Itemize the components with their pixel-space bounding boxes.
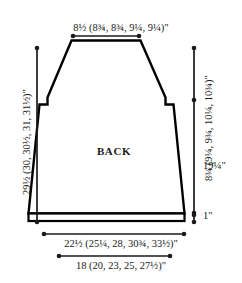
label-total-length: 29½ (30, 30½, 31, 31½)" [22, 89, 33, 195]
garment-outline-path [29, 41, 185, 214]
label-hem-width: 22½ (25¼, 28, 30¾, 33½)" [0, 239, 242, 250]
hem-band [29, 214, 185, 222]
piece-label-back: BACK [0, 146, 228, 157]
label-body-length: 19¼" [203, 161, 226, 172]
label-shoulder-top-width: 8½ (8¾, 8¾, 9¼, 9¼)" [0, 23, 242, 34]
measure-hem-width [42, 232, 187, 237]
measure-body-width [57, 254, 173, 259]
label-body-bottom-width: 18 (20, 23, 25, 27½)" [0, 261, 242, 272]
measure-top-width [71, 34, 142, 39]
measure-right-segments [192, 46, 197, 225]
label-hem-depth: 1" [203, 211, 213, 222]
